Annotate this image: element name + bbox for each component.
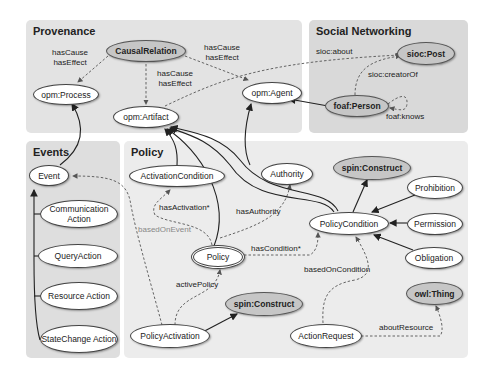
node-action-request[interactable]: ActionRequest — [290, 324, 362, 348]
node-opm-agent[interactable]: opm:Agent — [242, 82, 302, 104]
edge-label-based-on-event: basedOnEvent — [138, 225, 191, 235]
edge-label-cause-effect-process: hasCausehasEffect — [52, 48, 88, 68]
edge-label-sioc-creator-of: sioc:creatorOf — [368, 70, 418, 80]
node-prohibition[interactable]: Prohibition — [407, 176, 463, 199]
edge-label-has-authority: hasAuthority — [236, 207, 280, 217]
node-owl-thing[interactable]: owl:Thing — [406, 282, 463, 305]
node-query-action[interactable]: QueryAction — [38, 244, 118, 268]
edge-label-cause-effect-agent: hasCausehasEffect — [204, 43, 240, 63]
edge-label-sioc-about: sioc:about — [316, 47, 352, 57]
node-foaf-person[interactable]: foaf:Person — [325, 95, 389, 117]
edge-label-active-policy: activePolicy — [176, 280, 218, 290]
node-resource-action[interactable]: Resource Action — [40, 282, 118, 310]
node-obligation[interactable]: Obligation — [405, 247, 463, 269]
edge-label-based-on-condition: basedOnCondition — [304, 265, 370, 275]
node-opm-process[interactable]: opm:Process — [33, 84, 99, 105]
node-permission[interactable]: Permission — [407, 213, 463, 235]
node-policy-activation[interactable]: PolicyActivation — [130, 324, 210, 348]
node-causal-relation[interactable]: CausalRelation — [106, 40, 186, 62]
node-spin-construct-top[interactable]: spin:Construct — [333, 156, 411, 180]
node-event[interactable]: Event — [29, 165, 69, 186]
edge-label-has-condition: hasCondition* — [251, 244, 301, 254]
edge-label-foaf-knows: foaf:knows — [386, 112, 424, 122]
node-policy-condition[interactable]: PolicyCondition — [309, 212, 389, 235]
edge-label-about-resource: aboutResource — [379, 323, 433, 333]
node-communication-action[interactable]: Communication Action — [40, 200, 118, 228]
node-sioc-post[interactable]: sioc:Post — [397, 42, 455, 65]
node-activation-condition[interactable]: ActivationCondition — [129, 165, 225, 187]
edge-label-cause-effect-artifact: hasCausehasEffect — [157, 69, 193, 89]
node-policy[interactable]: Policy — [191, 245, 245, 269]
node-statechange-action[interactable]: StateChange Action — [40, 325, 118, 353]
node-spin-construct-bottom[interactable]: spin:Construct — [225, 292, 303, 316]
node-opm-artifact[interactable]: opm:Artifact — [113, 106, 179, 128]
node-authority[interactable]: Authority — [261, 163, 313, 185]
edge-label-has-activation: hasActivation* — [159, 203, 210, 213]
